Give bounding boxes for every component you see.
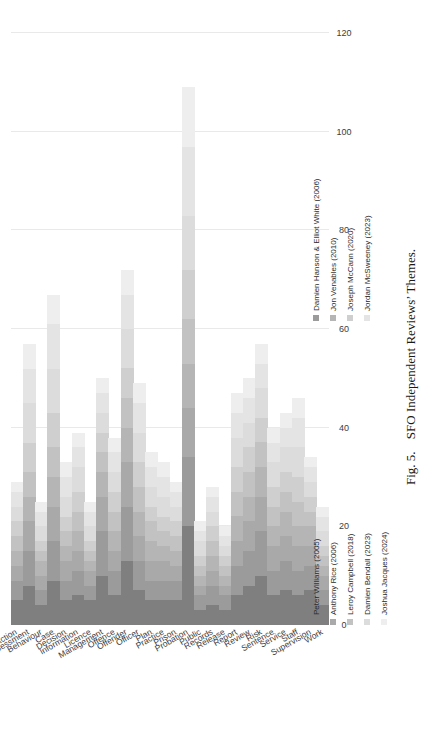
bar-segment bbox=[157, 600, 170, 625]
bar-segment bbox=[108, 551, 121, 571]
bar-segment bbox=[181, 526, 194, 625]
bar-segment bbox=[71, 512, 84, 532]
bar-segment bbox=[120, 295, 133, 330]
bar-segment bbox=[47, 507, 60, 542]
bar-segment bbox=[59, 477, 72, 497]
bar-segment bbox=[120, 561, 133, 625]
bar-segment bbox=[10, 536, 23, 551]
bar-action bbox=[10, 482, 23, 625]
legend-item: Damien Hanson & Elliot White (2006) bbox=[309, 25, 323, 321]
bar-segment bbox=[47, 369, 60, 413]
bar-segment bbox=[279, 590, 292, 625]
bar-segment bbox=[194, 576, 207, 586]
bar-segment bbox=[181, 457, 194, 526]
bar-public bbox=[194, 521, 207, 625]
bar-segment bbox=[145, 487, 158, 507]
legend-item: Joseph McCann (2020) bbox=[343, 25, 357, 321]
bar-segment bbox=[84, 551, 97, 561]
bar-segment bbox=[145, 600, 158, 625]
bar-segment bbox=[35, 605, 48, 625]
bar-segment bbox=[181, 364, 194, 408]
bar-segment bbox=[218, 526, 231, 536]
bar-segment bbox=[84, 600, 97, 625]
chart-legend: Peter Williams (2005)Damien Hanson & Ell… bbox=[309, 25, 367, 625]
bar-segment bbox=[206, 586, 219, 606]
bar-segment bbox=[267, 595, 280, 625]
bar-staff bbox=[291, 398, 304, 625]
bar-segment bbox=[120, 428, 133, 463]
bar-segment bbox=[84, 541, 97, 551]
bar-segment bbox=[243, 398, 256, 423]
bar-segment bbox=[267, 462, 280, 487]
bar-segment bbox=[132, 536, 145, 561]
bar-segment bbox=[145, 561, 158, 581]
bar-segment bbox=[120, 398, 133, 428]
figure-page: 020406080100120 ActionAssessmentBehaviou… bbox=[0, 0, 439, 734]
bar-segment bbox=[96, 393, 109, 413]
bar-segment bbox=[84, 561, 97, 571]
bar-risk bbox=[255, 344, 268, 625]
legend-label: Peter Williams (2005) bbox=[311, 539, 320, 615]
bar-segment bbox=[47, 477, 60, 507]
bar-segment bbox=[157, 477, 170, 497]
bar-segment bbox=[108, 492, 121, 512]
bar-segment bbox=[169, 566, 182, 581]
bar-segment bbox=[194, 610, 207, 625]
bar-segment bbox=[22, 521, 35, 551]
gridline bbox=[11, 229, 329, 230]
bar-segment bbox=[230, 413, 243, 438]
bar-licence bbox=[84, 502, 97, 625]
bar-segment bbox=[22, 443, 35, 473]
bar-segment bbox=[157, 497, 170, 517]
bar-segment bbox=[181, 319, 194, 363]
bar-segment bbox=[206, 541, 219, 556]
bar-segment bbox=[71, 467, 84, 492]
legend-label: Joshua Jacques (2024) bbox=[379, 532, 388, 615]
bar-segment bbox=[291, 571, 304, 596]
bar-segment bbox=[267, 487, 280, 507]
bar-segment bbox=[169, 536, 182, 551]
bar-offence bbox=[108, 438, 121, 625]
bar-segment bbox=[206, 526, 219, 541]
bar-segment bbox=[230, 595, 243, 625]
bar-segment bbox=[169, 600, 182, 625]
bar-segment bbox=[22, 497, 35, 522]
gridline bbox=[11, 131, 329, 132]
bar-segment bbox=[71, 595, 84, 625]
bar-segment bbox=[47, 447, 60, 477]
bar-segment bbox=[279, 428, 292, 448]
bar-segment bbox=[71, 571, 84, 596]
bar-review bbox=[243, 378, 256, 625]
bar-segment bbox=[59, 600, 72, 625]
bar-segment bbox=[132, 487, 145, 512]
bar-segment bbox=[71, 433, 84, 448]
bar-segment bbox=[194, 556, 207, 566]
bar-segment bbox=[169, 521, 182, 536]
bar-segment bbox=[47, 324, 60, 368]
bar-segment bbox=[35, 576, 48, 591]
bar-segment bbox=[96, 433, 109, 453]
bar-segment bbox=[108, 531, 121, 551]
bar-segment bbox=[132, 403, 145, 433]
bar-segment bbox=[10, 507, 23, 522]
bar-segment bbox=[145, 541, 158, 561]
bar-practice bbox=[157, 462, 170, 625]
bar-segment bbox=[243, 472, 256, 497]
bar-segment bbox=[59, 581, 72, 601]
bar-offender bbox=[120, 270, 133, 625]
bar-segment bbox=[145, 467, 158, 487]
bar-segment bbox=[22, 369, 35, 404]
bar-segment bbox=[255, 388, 268, 418]
bar-segment bbox=[35, 590, 48, 605]
bar-segment bbox=[279, 492, 292, 512]
bar-segment bbox=[218, 610, 231, 625]
bar-segment bbox=[47, 541, 60, 580]
legend-label: Leroy Campbell (2018) bbox=[345, 534, 354, 615]
bar-segment bbox=[96, 497, 109, 532]
bar-segment bbox=[279, 512, 292, 537]
bar-segment bbox=[35, 526, 48, 541]
bar-segment bbox=[22, 472, 35, 497]
legend-label: Damien Hanson & Elliot White (2006) bbox=[311, 178, 320, 311]
figure-caption: Fig. 5. SFO Independent Reviews’ Themes. bbox=[389, 0, 433, 734]
bar-segment bbox=[206, 487, 219, 497]
